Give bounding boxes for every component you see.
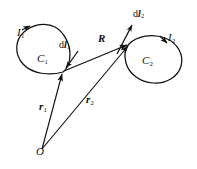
figure-two-current-loops: I1 I2 C1 C2 dl1 dl2 R r1 r2 O bbox=[0, 0, 197, 169]
label-position-r2: r2 bbox=[86, 94, 94, 105]
label-current-left: I1 bbox=[17, 27, 24, 38]
label-element-dl2: dl2 bbox=[133, 9, 144, 19]
label-position-r1: r1 bbox=[39, 101, 47, 112]
label-current-right: I2 bbox=[168, 32, 175, 43]
label-curve-right: C2 bbox=[142, 55, 153, 66]
label-element-dl1: dl1 bbox=[59, 40, 70, 50]
diagram-canvas bbox=[0, 0, 197, 169]
label-origin: O bbox=[36, 146, 44, 157]
label-curve-left: C1 bbox=[37, 53, 48, 64]
label-separation-vector-R: R bbox=[98, 33, 105, 44]
vector-r2 bbox=[42, 46, 128, 149]
